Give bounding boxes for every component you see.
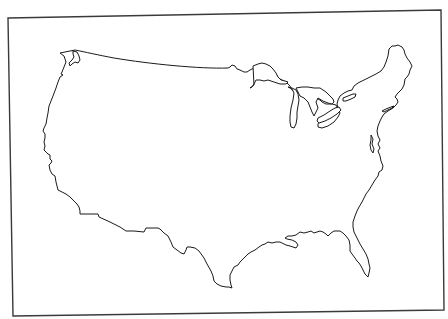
- us-outline-map: [0, 0, 448, 319]
- us-mainland-outline: [43, 45, 412, 288]
